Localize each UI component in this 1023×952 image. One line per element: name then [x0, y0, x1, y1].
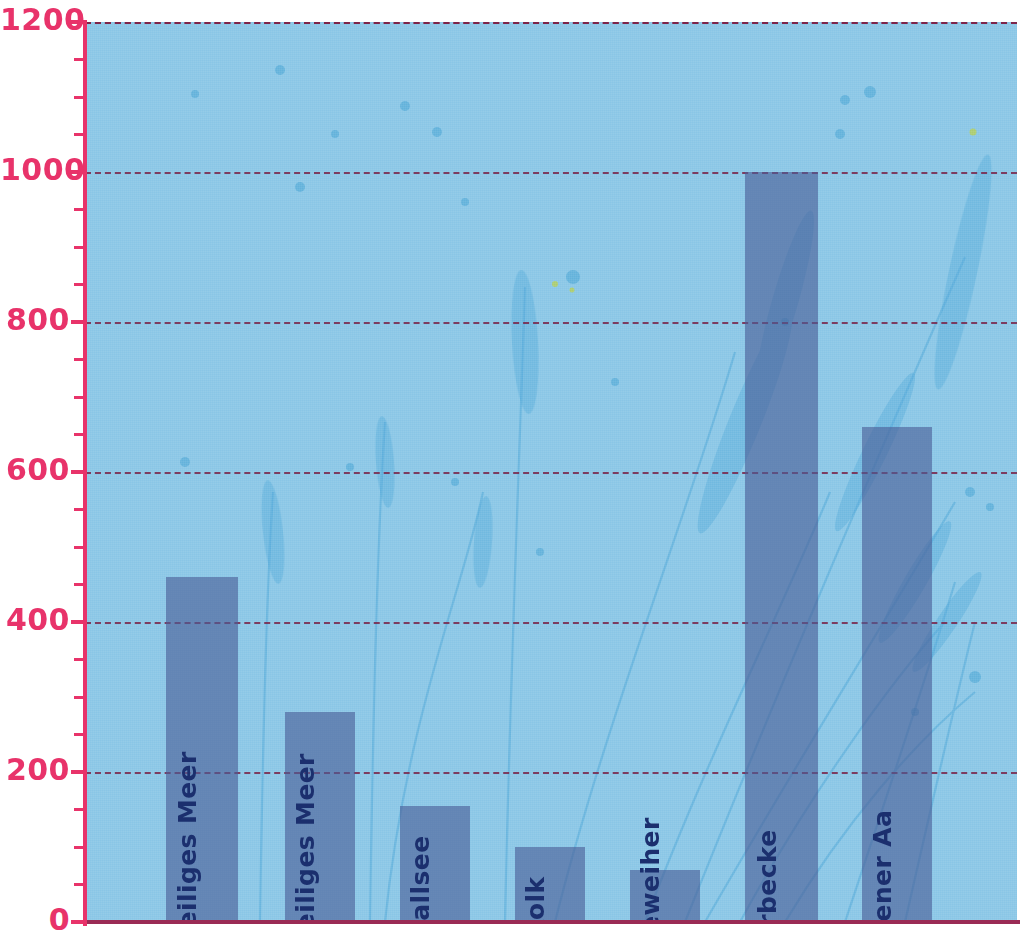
y-axis-label-800: 800 — [0, 302, 70, 337]
y-axis-label-1200: 1200 — [0, 2, 70, 37]
y-tick-major-800 — [71, 320, 87, 324]
y-tick-minor-850 — [74, 283, 87, 286]
y-axis-label-600: 600 — [0, 452, 70, 487]
gridline-800 — [85, 322, 1017, 324]
y-axis-label-1000: 1000 — [0, 152, 70, 187]
y-tick-minor-700 — [74, 396, 87, 399]
gridline-1000 — [85, 172, 1017, 174]
y-tick-minor-100 — [74, 846, 87, 849]
y-tick-major-400 — [71, 620, 87, 624]
y-tick-minor-500 — [74, 546, 87, 549]
bar[interactable] — [400, 806, 470, 922]
y-tick-minor-550 — [74, 508, 87, 511]
gridline-1200 — [85, 22, 1017, 24]
y-tick-minor-250 — [74, 733, 87, 736]
y-tick-minor-650 — [74, 433, 87, 436]
y-tick-minor-50 — [74, 883, 87, 886]
y-axis-label-0: 0 — [0, 902, 70, 937]
y-tick-minor-1050 — [74, 133, 87, 136]
y-tick-minor-900 — [74, 246, 87, 249]
y-tick-minor-300 — [74, 696, 87, 699]
y-tick-minor-150 — [74, 808, 87, 811]
y-tick-major-600 — [71, 470, 87, 474]
x-axis-line — [83, 920, 1020, 924]
bar[interactable] — [862, 427, 932, 922]
y-tick-major-200 — [71, 770, 87, 774]
bar[interactable] — [630, 870, 700, 923]
y-tick-minor-350 — [74, 658, 87, 661]
bar[interactable] — [745, 172, 818, 922]
y-tick-minor-1150 — [74, 58, 87, 61]
y-tick-minor-750 — [74, 358, 87, 361]
y-tick-minor-450 — [74, 583, 87, 586]
y-tick-minor-950 — [74, 208, 87, 211]
bar[interactable] — [285, 712, 355, 922]
y-axis-label-400: 400 — [0, 602, 70, 637]
y-tick-major-0 — [71, 920, 87, 924]
bar-chart: Kleines Heiliges MeerGroßes Heiliges Mee… — [0, 0, 1023, 952]
y-tick-minor-1100 — [74, 96, 87, 99]
plot-area: Kleines Heiliges MeerGroßes Heiliges Mee… — [85, 22, 1017, 922]
bar[interactable] — [166, 577, 238, 922]
bar[interactable] — [515, 847, 585, 922]
y-axis-label-200: 200 — [0, 752, 70, 787]
